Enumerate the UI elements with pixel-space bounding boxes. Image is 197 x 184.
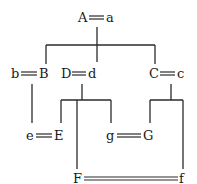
label-G: G	[143, 128, 153, 143]
diagram-svg: A a b B D d C c e E g G F f	[0, 0, 197, 184]
node-Aa: A a	[77, 10, 114, 25]
label-B: B	[39, 66, 49, 81]
label-A: A	[77, 10, 88, 25]
label-C: C	[149, 66, 159, 81]
label-e: e	[26, 128, 34, 143]
node-Cc: C c	[149, 66, 184, 81]
node-eE: e E	[26, 128, 64, 143]
node-Dd: D d	[61, 66, 96, 81]
connector-lines	[32, 27, 183, 169]
label-b: b	[11, 66, 19, 81]
label-F: F	[73, 171, 82, 184]
label-E: E	[54, 128, 64, 143]
label-f: f	[179, 171, 185, 184]
label-g: g	[106, 128, 114, 143]
node-bB: b B	[11, 66, 49, 81]
label-a: a	[106, 10, 114, 25]
label-D: D	[61, 66, 71, 81]
label-c: c	[177, 66, 184, 81]
pedigree-diagram: A a b B D d C c e E g G F f	[0, 0, 197, 184]
node-gG: g G	[106, 128, 153, 143]
marriage-bars	[21, 16, 178, 180]
label-d: d	[88, 66, 96, 81]
